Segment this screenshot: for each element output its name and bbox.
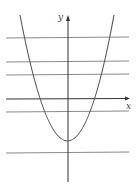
x-axis-label: x — [126, 101, 131, 111]
y-axis-arrow-icon — [66, 15, 70, 21]
x-axis-arrow-icon — [125, 97, 130, 101]
x-axis — [6, 99, 127, 100]
parabola-curve — [20, 15, 114, 141]
parabola-diagram: y x — [0, 0, 136, 185]
y-axis-label: y — [57, 12, 64, 22]
